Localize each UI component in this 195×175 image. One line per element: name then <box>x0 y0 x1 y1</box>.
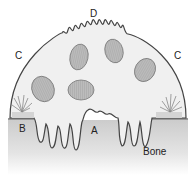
label-bone: Bone <box>143 146 167 157</box>
label-c-right: C <box>174 50 181 61</box>
nucleus <box>68 80 94 100</box>
label-b: B <box>19 123 26 134</box>
label-d: D <box>90 8 97 19</box>
osteoclast-diagram: D C C B A Bone <box>0 0 195 175</box>
diagram-canvas: D C C B A Bone <box>0 0 195 175</box>
label-a: A <box>91 125 98 136</box>
label-c-left: C <box>15 50 22 61</box>
